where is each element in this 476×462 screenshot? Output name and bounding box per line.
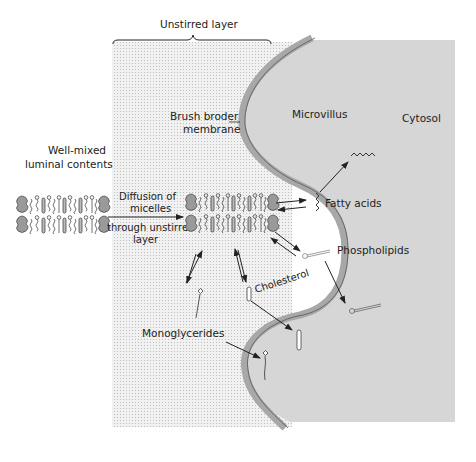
absorbed-cholesterol	[297, 330, 301, 350]
membrane-label-line1: Brush broder	[170, 110, 239, 122]
luminal-label-line1: Well-mixed	[48, 144, 106, 156]
luminal-label-line2: luminal contents	[25, 158, 113, 170]
phospholipid-molecule	[303, 250, 331, 259]
diffusion-label-line4: layer	[133, 234, 159, 245]
diffusion-label-line1: Diffusion of	[119, 191, 176, 202]
fatty-acids-label: Fatty acids	[325, 197, 382, 209]
phospholipids-label: Phospholipids	[337, 244, 409, 256]
lipid-absorption-diagram: Unstirred layer Well-mixed luminal conte…	[0, 0, 476, 462]
microvillus-label: Microvillus	[292, 108, 347, 120]
monoglycerides-label: Monoglycerides	[142, 327, 224, 339]
cholesterol-molecule	[247, 287, 251, 301]
diffusion-label-line3: through unstirred	[107, 222, 194, 233]
luminal-micelle	[17, 196, 111, 234]
cytosol-label: Cytosol	[402, 112, 441, 124]
unstirred-layer-label: Unstirred layer	[160, 18, 239, 30]
diffusion-label-line2: micelles	[130, 203, 171, 214]
membrane-label-line2: membrane	[183, 123, 240, 135]
